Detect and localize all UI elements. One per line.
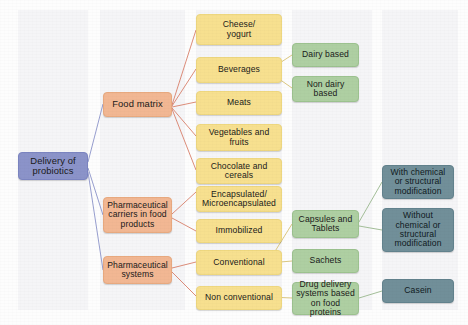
edges-root [88, 104, 103, 270]
node-label: Non dairy based [307, 80, 345, 99]
edge-ps-conventional [172, 262, 196, 268]
node-label: With chemical or structural modification [391, 168, 446, 196]
node-with-modification[interactable]: With chemical or structural modification [382, 165, 454, 199]
node-casein[interactable]: Casein [382, 279, 454, 303]
edge-fm-beverages [172, 69, 196, 106]
edge-fm-vegetables [172, 108, 196, 136]
node-label: Without chemical or structural modificat… [394, 211, 441, 248]
node-pharmaceutical-systems[interactable]: Pharmaceutical systems [103, 256, 172, 284]
flowchart-canvas: Delivery of probiotics Food matrix Pharm… [0, 0, 468, 325]
node-encapsulated-microencapsulated[interactable]: Encapsulated/ Microencapsulated [196, 186, 282, 212]
edge-root-food-matrix [88, 104, 103, 162]
node-label: Dairy based [302, 50, 349, 59]
node-label: Chocolate and cereals [211, 162, 268, 181]
edge-ps-nonconventional [172, 272, 196, 296]
edge-cap-without-mod [359, 226, 382, 230]
edge-fm-cheese [172, 30, 196, 105]
node-cheese-yogurt[interactable]: Cheese/ yogurt [196, 14, 282, 45]
node-label: Casein [404, 286, 431, 295]
edges-pharma-carriers [172, 192, 196, 231]
edges-food-matrix [172, 30, 196, 170]
node-label: Immobilized [216, 226, 263, 235]
edge-fm-meats [172, 102, 196, 107]
node-vegetables-and-fruits[interactable]: Vegetables and fruits [196, 124, 282, 151]
node-pharmaceutical-carriers[interactable]: Pharmaceutical carriers in food products [103, 197, 172, 233]
node-non-dairy-based[interactable]: Non dairy based [292, 76, 359, 102]
node-label: Meats [227, 98, 251, 107]
node-label: Capsules and Tablets [299, 215, 353, 234]
node-drug-delivery-systems[interactable]: Drug delivery systems based on food prot… [292, 282, 359, 315]
node-label: Delivery of probiotics [30, 156, 75, 176]
node-label: Drug delivery systems based on food prot… [295, 280, 356, 317]
node-label: Encapsulated/ Microencapsulated [202, 190, 276, 209]
node-chocolate-and-cereals[interactable]: Chocolate and cereals [196, 158, 282, 184]
edge-pc-encapsulated [172, 192, 196, 214]
node-dairy-based[interactable]: Dairy based [292, 43, 359, 67]
node-beverages[interactable]: Beverages [196, 57, 282, 83]
node-conventional[interactable]: Conventional [196, 250, 282, 275]
node-label: Non conventional [205, 293, 273, 302]
node-label: Vegetables and fruits [209, 128, 270, 147]
node-immobilized[interactable]: Immobilized [196, 219, 282, 243]
node-meats[interactable]: Meats [196, 91, 282, 115]
edges-pharma-systems [172, 262, 196, 296]
node-label: Cheese/ yogurt [223, 20, 256, 39]
node-sachets[interactable]: Sachets [292, 249, 359, 273]
edge-drug-casein [359, 291, 382, 298]
edge-root-pharma-systems [88, 172, 103, 270]
edge-cap-with-mod [359, 182, 382, 222]
node-label: Pharmaceutical systems [107, 261, 168, 280]
node-delivery-of-probiotics[interactable]: Delivery of probiotics [18, 152, 88, 180]
edges-capsules [359, 182, 382, 230]
node-label: Pharmaceutical carriers in food products [107, 201, 168, 229]
edges-drugdelivery [359, 291, 382, 298]
node-label: Sachets [310, 256, 342, 265]
node-label: Beverages [218, 65, 260, 74]
node-label: Conventional [213, 258, 264, 267]
edge-fm-chocolate [172, 109, 196, 170]
node-capsules-and-tablets[interactable]: Capsules and Tablets [292, 210, 359, 238]
node-without-modification[interactable]: Without chemical or structural modificat… [382, 208, 454, 252]
node-non-conventional[interactable]: Non conventional [196, 286, 282, 310]
node-food-matrix[interactable]: Food matrix [103, 92, 172, 117]
edge-root-pharma-carriers [88, 168, 103, 215]
node-label: Food matrix [112, 99, 163, 109]
edge-pc-immobilized [172, 218, 196, 231]
